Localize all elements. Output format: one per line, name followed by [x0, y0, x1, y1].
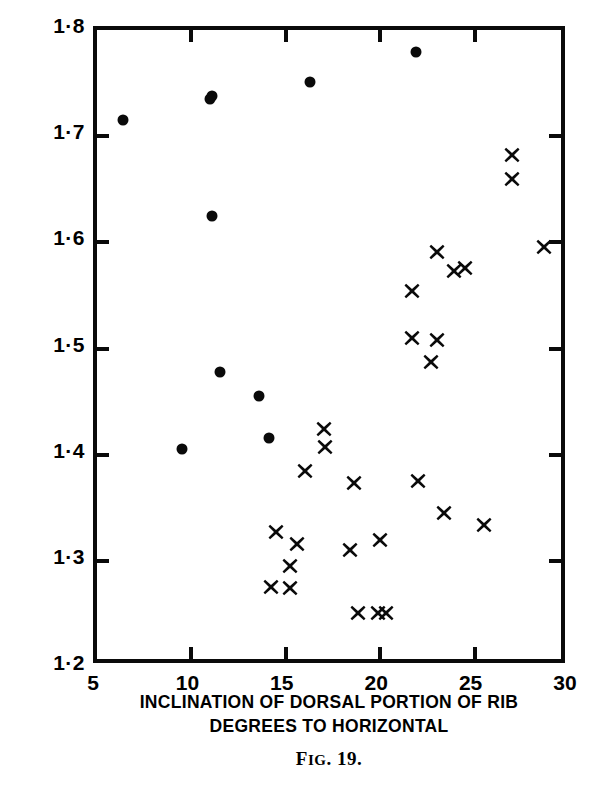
- data-point-cross: [289, 535, 306, 552]
- data-point-cross: [262, 579, 279, 596]
- y-tick-label: 1·7: [21, 120, 85, 144]
- plot-frame: [93, 26, 565, 663]
- y-axis-tick-right: [549, 347, 562, 351]
- data-point-cross: [436, 505, 453, 522]
- figure-caption: FIG. 19.: [93, 748, 565, 770]
- data-point-cross: [345, 475, 362, 492]
- y-tick-label: 1·8: [21, 14, 85, 38]
- y-tick-label: 1·5: [21, 333, 85, 357]
- data-point-cross: [268, 524, 285, 541]
- data-point-cross: [349, 604, 366, 621]
- y-axis-tick-right: [549, 240, 562, 244]
- data-point-cross: [476, 516, 493, 533]
- data-point-circle: [207, 210, 218, 221]
- x-axis-title-line1: INCLINATION OF DORSAL PORTION OF RIB: [93, 690, 565, 714]
- data-point-circle: [205, 94, 216, 105]
- y-tick-label: 1·6: [21, 226, 85, 250]
- y-axis-tick-right: [549, 134, 562, 138]
- data-point-circle: [176, 444, 187, 455]
- data-point-cross: [404, 283, 421, 300]
- data-point-circle: [214, 366, 225, 377]
- figure-container: BREADTH OF CHEST PER UNIT HEIGHT 1·21·31…: [0, 0, 602, 787]
- x-axis-tick: [284, 647, 288, 660]
- data-point-cross: [315, 421, 332, 438]
- x-axis-tick-top: [284, 29, 288, 42]
- data-point-cross: [409, 473, 426, 490]
- y-tick-label: 1·4: [21, 439, 85, 463]
- data-point-cross: [504, 147, 521, 164]
- y-tick-label: 1·3: [21, 545, 85, 569]
- x-axis-tick: [473, 647, 477, 660]
- data-point-cross: [281, 580, 298, 597]
- data-point-cross: [504, 170, 521, 187]
- plot-area: [97, 30, 561, 659]
- y-axis-tick: [96, 559, 109, 563]
- y-axis-tick: [96, 134, 109, 138]
- data-point-cross: [370, 604, 387, 621]
- data-point-cross: [377, 604, 394, 621]
- figure-caption-text: FIG. 19.: [296, 748, 362, 769]
- x-axis-tick: [189, 647, 193, 660]
- data-point-cross: [457, 259, 474, 276]
- data-point-cross: [296, 462, 313, 479]
- data-point-cross: [317, 439, 334, 456]
- x-axis-tick-top: [473, 29, 477, 42]
- data-point-circle: [207, 90, 218, 101]
- x-axis-tick-top: [189, 29, 193, 42]
- data-point-circle: [118, 115, 129, 126]
- y-axis-tick: [96, 240, 109, 244]
- data-point-cross: [372, 531, 389, 548]
- data-point-cross: [423, 354, 440, 371]
- data-point-cross: [341, 542, 358, 559]
- data-point-circle: [305, 77, 316, 88]
- data-point-cross: [428, 243, 445, 260]
- data-point-cross: [404, 329, 421, 346]
- x-axis-title-line2: DEGREES TO HORIZONTAL: [93, 714, 565, 738]
- x-axis-tick-top: [378, 29, 382, 42]
- y-axis-tick: [96, 347, 109, 351]
- y-axis-tick-right: [549, 453, 562, 457]
- data-point-circle: [411, 47, 422, 58]
- data-point-cross: [445, 262, 462, 279]
- y-axis-tick: [96, 453, 109, 457]
- data-point-circle: [254, 391, 265, 402]
- data-point-circle: [263, 432, 274, 443]
- x-axis-tick: [378, 647, 382, 660]
- data-point-cross: [281, 558, 298, 575]
- data-point-cross: [428, 332, 445, 349]
- y-axis-tick-right: [549, 559, 562, 563]
- x-axis-title: INCLINATION OF DORSAL PORTION OF RIB DEG…: [93, 690, 565, 738]
